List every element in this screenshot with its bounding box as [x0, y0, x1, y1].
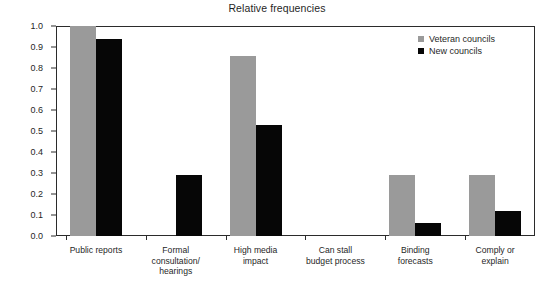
- legend-label: New councils: [429, 45, 482, 57]
- x-tick-mark: [146, 236, 147, 240]
- legend-item: Veteran councils: [418, 33, 495, 45]
- x-tick-mark: [385, 236, 386, 240]
- legend-swatch-icon: [418, 48, 424, 54]
- legend-swatch-icon: [418, 36, 424, 42]
- x-tick-mark: [465, 236, 466, 240]
- y-tick-label: 0.7: [30, 84, 43, 94]
- legend-item: New councils: [418, 45, 495, 57]
- x-tick-mark: [226, 236, 227, 240]
- bar-new: [176, 175, 202, 236]
- y-tick-label: 1.0: [30, 21, 43, 31]
- bar-veteran: [230, 56, 256, 236]
- legend-label: Veteran councils: [429, 33, 495, 45]
- y-tick-label: 0.5: [30, 126, 43, 136]
- bar-new: [256, 125, 282, 236]
- chart-legend: Veteran councilsNew councils: [418, 33, 495, 57]
- x-tick-label: Binding forecasts: [398, 245, 433, 266]
- y-axis: 0.00.10.20.30.40.50.60.70.80.91.0: [0, 0, 56, 262]
- x-tick-label: Can stall budget process: [306, 245, 365, 266]
- x-tick-label: Formal consultation/ hearings: [152, 245, 200, 277]
- x-tick-mark: [66, 236, 67, 240]
- bar-veteran: [469, 175, 495, 236]
- y-tick-label: 0.1: [30, 210, 43, 220]
- x-tick-mark: [305, 236, 306, 240]
- chart-title: Relative frequencies: [0, 2, 554, 14]
- y-tick-label: 0.3: [30, 168, 43, 178]
- bar-veteran: [70, 26, 96, 236]
- bar-veteran: [389, 175, 415, 236]
- bar-new: [415, 223, 441, 236]
- y-tick-label: 0.0: [30, 231, 43, 241]
- bars-layer: [56, 26, 535, 236]
- y-tick-label: 0.4: [30, 147, 43, 157]
- y-tick-label: 0.2: [30, 189, 43, 199]
- y-tick-label: 0.8: [30, 63, 43, 73]
- y-tick-label: 0.6: [30, 105, 43, 115]
- x-tick-label: Public reports: [70, 245, 123, 256]
- x-tick-label: Comply or explain: [475, 245, 514, 266]
- y-tick-label: 0.9: [30, 42, 43, 52]
- x-tick-label: High media impact: [234, 245, 277, 266]
- bar-new: [96, 39, 122, 236]
- x-axis: Public reportsFormal consultation/ heari…: [56, 236, 535, 291]
- chart-figure: Relative frequencies 0.00.10.20.30.40.50…: [0, 0, 554, 291]
- bar-new: [495, 211, 521, 236]
